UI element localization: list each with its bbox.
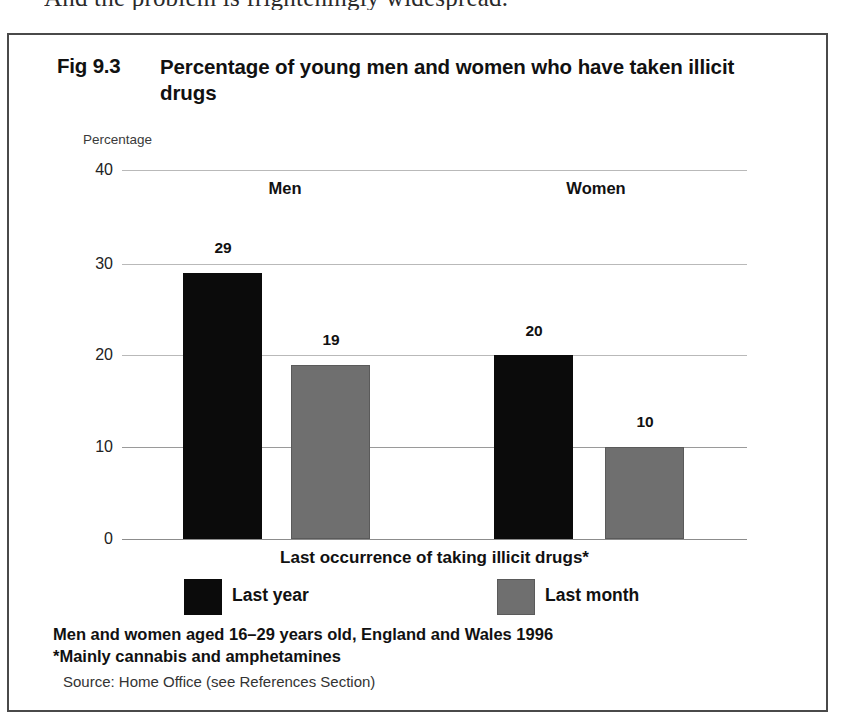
- ytick-label-10: 10: [61, 438, 113, 456]
- legend-label-last-month: Last month: [545, 585, 639, 606]
- x-axis-title: Last occurrence of taking illicit drugs*: [122, 548, 747, 568]
- ytick-label-30: 30: [61, 255, 113, 273]
- bar-men-last-year[interactable]: [183, 273, 262, 539]
- figure-source: Source: Home Office (see References Sect…: [63, 673, 375, 690]
- bar-men-last-month[interactable]: [291, 365, 370, 539]
- running-body-text: And the problem is frighteningly widespr…: [44, 0, 804, 10]
- legend-label-last-year: Last year: [232, 585, 309, 606]
- ytick-label-0: 0: [61, 530, 113, 548]
- legend: Last year Last month: [9, 577, 826, 621]
- group-label-women: Women: [516, 179, 676, 198]
- legend-swatch-last-year: [184, 579, 222, 615]
- bar-women-last-year[interactable]: [494, 355, 573, 539]
- bar-value-men-last-year: 29: [183, 239, 263, 257]
- bar-value-women-last-month: 10: [605, 413, 685, 431]
- ytick-label-40: 40: [61, 161, 113, 179]
- bar-value-men-last-month: 19: [291, 331, 371, 349]
- axis-zero-line: [122, 539, 747, 540]
- gridline-40: [122, 170, 747, 171]
- legend-swatch-last-month: [497, 579, 535, 615]
- bar-value-women-last-year: 20: [494, 322, 574, 340]
- group-label-men: Men: [205, 179, 365, 198]
- bar-women-last-month[interactable]: [605, 447, 684, 539]
- footnote-population: Men and women aged 16–29 years old, Engl…: [53, 623, 793, 645]
- ytick-label-20: 20: [61, 346, 113, 364]
- figure-footnotes: Men and women aged 16–29 years old, Engl…: [53, 623, 793, 667]
- gridline-30: [122, 264, 747, 265]
- footnote-asterisk: *Mainly cannabis and amphetamines: [53, 645, 793, 667]
- figure-frame: Fig 9.3 Percentage of young men and wome…: [7, 33, 828, 712]
